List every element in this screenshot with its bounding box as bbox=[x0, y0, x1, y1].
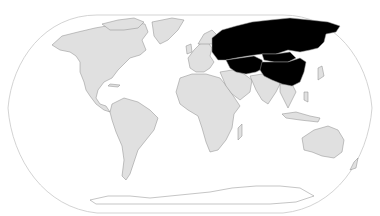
region-philippines bbox=[304, 92, 308, 102]
world-map bbox=[0, 0, 380, 216]
region-uk bbox=[186, 44, 192, 54]
